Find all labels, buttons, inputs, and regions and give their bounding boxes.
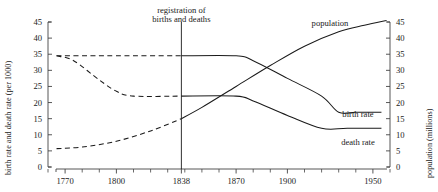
right-tick-label: 10 — [396, 130, 405, 140]
x-axis-ticks: 177018001838187019001950 — [48, 169, 390, 186]
series-line-population-solid — [181, 20, 386, 118]
x-tick-label: 1900 — [279, 176, 296, 186]
annotation-line-2: births and deaths — [152, 14, 211, 24]
series-label-group: populationbirth ratedeath rate — [312, 18, 375, 147]
left-axis-ticks: 051015202530354045 — [33, 17, 52, 172]
right-tick-label: 35 — [396, 49, 405, 59]
right-tick-label: 0 — [396, 162, 400, 172]
series-line-death-rate-dashed — [57, 56, 182, 97]
right-tick-label: 25 — [396, 81, 405, 91]
y-axis-right-title: population (millions) — [425, 108, 434, 178]
left-tick-label: 30 — [33, 65, 42, 75]
x-tick-label: 1800 — [108, 176, 125, 186]
left-tick-label: 15 — [33, 114, 42, 124]
left-tick-label: 5 — [38, 146, 42, 156]
series-line-population-dashed — [57, 119, 182, 149]
population-birth-death-chart: 051015202530354045 051015202530354045 17… — [0, 0, 438, 192]
series-label-death-rate: death rate — [341, 137, 375, 147]
annotation-group: registration ofbirths and deaths — [152, 5, 211, 169]
series-label-birth-rate: birth rate — [342, 109, 373, 119]
x-tick-label: 1770 — [57, 176, 74, 186]
right-tick-label: 15 — [396, 114, 405, 124]
right-tick-label: 40 — [396, 33, 405, 43]
x-tick-label: 1950 — [364, 176, 381, 186]
left-axis-spine — [48, 22, 51, 167]
left-tick-label: 40 — [33, 33, 42, 43]
left-tick-label: 45 — [33, 17, 42, 27]
data-series-group — [57, 20, 387, 148]
x-tick-label: 1838 — [173, 176, 190, 186]
y-axis-left-title: birth rate and death rate (per 1000) — [4, 61, 13, 175]
chart-container: 051015202530354045 051015202530354045 17… — [0, 0, 438, 192]
x-axis-spine — [56, 169, 387, 172]
right-tick-label: 20 — [396, 98, 405, 108]
left-tick-label: 25 — [33, 81, 42, 91]
right-tick-label: 30 — [396, 65, 405, 75]
left-tick-label: 20 — [33, 98, 42, 108]
x-tick-label: 1870 — [228, 176, 245, 186]
right-axis-ticks: 051015202530354045 — [386, 17, 405, 172]
right-tick-label: 45 — [396, 17, 405, 27]
series-label-population: population — [312, 18, 349, 28]
left-tick-label: 35 — [33, 49, 42, 59]
left-tick-label: 0 — [38, 162, 42, 172]
right-axis-spine — [387, 22, 390, 167]
series-line-birth-rate-solid — [181, 55, 381, 113]
right-tick-label: 5 — [396, 146, 400, 156]
left-tick-label: 10 — [33, 130, 42, 140]
